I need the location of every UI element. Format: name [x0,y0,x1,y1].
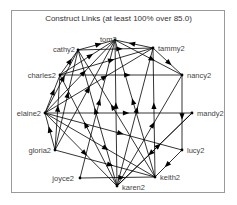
arrow-icon [149,121,157,129]
node-tammy2 [152,47,155,50]
node-elaine2 [44,112,47,115]
node-cathy2 [77,49,80,52]
node-label-charles2: charles2 [28,71,56,80]
node-charles2 [59,74,62,77]
node-label-tammy2: tammy2 [158,44,185,53]
node-joyce2 [79,177,82,180]
node-label-mandy2: mandy2 [197,109,224,118]
edge-karen2-cathy2 [78,50,117,186]
arrow-icon [108,57,116,64]
arrow-icon [46,126,53,134]
arrow-icon [124,72,131,77]
arrow-icon [66,57,74,65]
edge-gloria2-tom2 [55,40,115,150]
node-label-karen2: karen2 [122,183,145,192]
arrow-icon [116,46,123,51]
node-label-nancy2: nancy2 [187,71,211,80]
arrow-icon [151,103,156,110]
node-gloria2 [54,149,57,152]
arrow-icon [123,110,130,115]
node-label-elaine2: elaine2 [17,109,41,118]
arrow-icon [128,40,135,46]
arrow-icon [96,98,103,106]
node-nancy2 [181,74,184,77]
edge-layer [45,40,192,186]
node-label-joyce2: joyce2 [51,174,74,183]
edge-elaine2-cathy2 [45,50,78,113]
node-mandy2 [191,112,194,115]
edge-keith2-tammy2 [153,48,155,177]
node-label-gloria2: gloria2 [28,146,51,155]
node-label-cathy2: cathy2 [53,45,75,54]
edge-keith2-tom2 [115,40,155,177]
node-label-lucy2: lucy2 [187,146,205,155]
arrow-icon [117,130,125,137]
node-lucy2 [181,149,184,152]
edge-elaine2-lucy2 [45,113,182,150]
node-karen2 [116,185,119,188]
network-graph: tom2cathy2tammy2charles2nancy2elaine2man… [0,0,237,205]
arrow-icon [179,113,184,120]
node-keith2 [154,176,157,179]
arrow-icon [86,52,94,60]
arrow-icon [130,98,137,106]
edge-joyce2-keith2 [80,177,155,178]
node-label-keith2: keith2 [160,173,180,182]
node-label-tom2: tom2 [100,35,117,44]
